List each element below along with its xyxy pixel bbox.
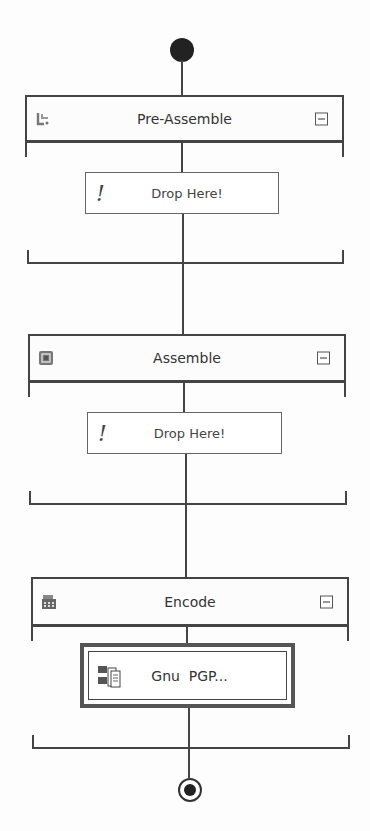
connector xyxy=(185,454,187,578)
collapse-icon[interactable] xyxy=(320,595,333,608)
stage-header-assemble[interactable]: Assemble xyxy=(28,334,346,383)
stage-title: Encode xyxy=(33,579,347,624)
component-label: Gnu PGP... xyxy=(123,668,256,684)
connector xyxy=(183,383,185,413)
collapse-icon[interactable] xyxy=(317,352,330,365)
stage-side-right xyxy=(342,143,344,157)
stage-side-left xyxy=(28,383,30,397)
start-node xyxy=(170,38,194,62)
drop-target-label: Drop Here! xyxy=(118,426,261,441)
drop-target-label: Drop Here! xyxy=(116,186,258,201)
stage-bottom-bracket xyxy=(27,250,344,264)
drop-target[interactable]: ! Drop Here! xyxy=(85,172,279,214)
stage-side-right xyxy=(344,383,346,397)
stage-title: Pre-Assemble xyxy=(27,97,342,140)
stage-side-left xyxy=(31,627,33,641)
stage-side-right xyxy=(347,627,349,641)
stage-side-left xyxy=(25,143,27,157)
stage-title: Assemble xyxy=(30,336,344,380)
exclamation-icon: ! xyxy=(98,421,118,446)
stage-header-pre-assemble[interactable]: Pre-Assemble xyxy=(25,95,344,143)
connector xyxy=(181,60,183,96)
stage-header-encode[interactable]: Encode xyxy=(31,577,349,627)
collapse-icon[interactable] xyxy=(315,112,328,125)
stage-bottom-bracket xyxy=(32,735,350,749)
gnupg-component-icon xyxy=(97,663,123,689)
component-gnu-pgp[interactable]: Gnu PGP... xyxy=(80,643,295,708)
end-node xyxy=(178,778,202,802)
stage-bottom-bracket xyxy=(29,491,347,505)
connector xyxy=(181,143,183,173)
connector xyxy=(182,214,184,335)
exclamation-icon: ! xyxy=(96,181,116,206)
drop-target[interactable]: ! Drop Here! xyxy=(87,412,282,454)
